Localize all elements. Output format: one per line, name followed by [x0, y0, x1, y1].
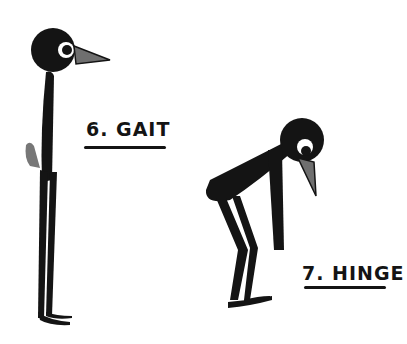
hinge-underline — [304, 286, 386, 289]
gait-bird — [26, 28, 111, 325]
illustration-canvas: 6. GAIT 7. HINGE — [0, 0, 407, 344]
gait-underline — [84, 146, 166, 149]
hinge-label: 7. HINGE — [302, 262, 405, 284]
bird-figures — [0, 0, 407, 344]
gait-label: 6. GAIT — [86, 118, 170, 140]
